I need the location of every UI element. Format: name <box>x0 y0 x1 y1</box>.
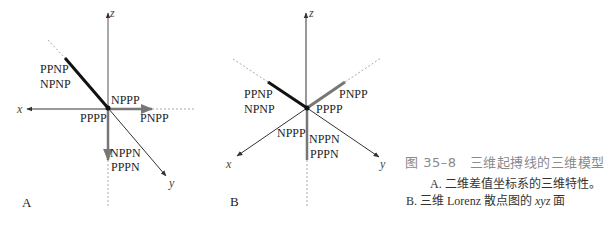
label-nppp-a: NPPP <box>111 93 140 107</box>
panel-label-b: B <box>230 194 239 209</box>
figure-title: 图 35–8 三维起搏线的三维模型 <box>405 152 605 171</box>
label-pnpp-a: PNPP <box>140 111 169 125</box>
label-pppp-a: PPPP <box>80 111 107 125</box>
origin-b <box>305 106 310 111</box>
dotted-extension-ppnp-b <box>233 59 268 82</box>
label-ppnp-b: PPNP <box>244 87 273 101</box>
segment-ppnp-a <box>65 58 108 108</box>
caption-b-italic: xyz <box>535 194 550 208</box>
panel-a: z x y PPNP NPNP NPPP PPPP PNPP NPPN PPPN… <box>16 6 195 210</box>
z-axis-label-b: z <box>308 6 314 20</box>
label-nppp-b: NPPP <box>277 126 306 140</box>
label-npnp-b: NPNP <box>244 102 275 116</box>
y-axis-label-b: y <box>379 157 386 171</box>
origin-a <box>106 106 111 111</box>
label-pppn-b: PPPN <box>310 147 339 161</box>
dotted-extension-pnpp-b <box>345 58 381 82</box>
label-nppn-a: NPPN <box>110 146 141 160</box>
label-npnp-a: NPNP <box>40 77 71 91</box>
x-axis-label-a: x <box>16 102 23 116</box>
x-axis-label-b: x <box>225 157 232 171</box>
caption-b-suffix: 面 <box>550 194 565 208</box>
label-pnpp-b: PNPP <box>339 87 368 101</box>
label-pppp-b: PPPP <box>316 102 343 116</box>
label-pppn-a: PPPN <box>111 160 140 174</box>
z-axis-label-a: z <box>109 6 115 20</box>
panel-label-a: A <box>22 195 32 210</box>
panel-b: z x y PPNP NPNP PNPP PPPP NPPP NPPN PPPN… <box>225 6 386 209</box>
label-nppn-b: NPPN <box>309 132 340 146</box>
dotted-extension-ppnp <box>48 40 65 58</box>
label-ppnp-a: PPNP <box>40 62 69 76</box>
caption-a: A. 二维差值坐标系的三维特性。 <box>430 174 601 192</box>
caption-b: B. 三维 Lorenz 散点图的 xyz 面 <box>406 191 565 209</box>
y-axis-label-a: y <box>168 176 175 190</box>
caption-b-prefix: B. 三维 Lorenz 散点图的 <box>406 194 535 208</box>
